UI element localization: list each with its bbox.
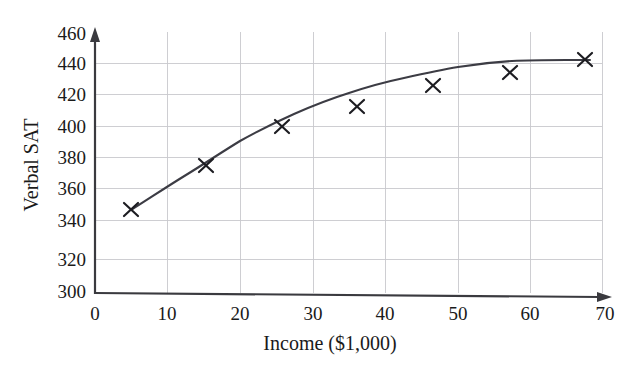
data-point-3 xyxy=(275,120,289,133)
x-axis-line xyxy=(95,293,600,297)
fit-curve xyxy=(131,60,590,210)
y-tick-300: 300 xyxy=(58,281,87,302)
y-tick-labels: 460 440 420 400 380 360 340 320 300 xyxy=(58,23,87,302)
y-axis-arrowhead xyxy=(90,27,100,42)
data-point-5 xyxy=(426,79,440,92)
y-tick-380: 380 xyxy=(58,147,87,168)
x-tick-40: 40 xyxy=(376,303,395,324)
x-tick-70: 70 xyxy=(596,303,615,324)
x-tick-20: 20 xyxy=(231,303,250,324)
y-axis xyxy=(90,27,100,294)
x-axis-title: Income ($1,000) xyxy=(263,332,396,355)
y-axis-title: Verbal SAT xyxy=(20,119,42,212)
x-axis xyxy=(95,292,612,302)
data-point-4 xyxy=(350,100,364,113)
y-tick-420: 420 xyxy=(58,84,87,105)
y-tick-340: 340 xyxy=(58,210,87,231)
x-tick-labels: 0 10 20 30 40 50 60 70 xyxy=(90,303,614,324)
scatter-plot-figure: 460 440 420 400 380 360 340 320 300 0 10… xyxy=(0,0,644,370)
data-point-1 xyxy=(124,203,138,216)
y-tick-400: 400 xyxy=(58,116,87,137)
x-tick-50: 50 xyxy=(449,303,468,324)
x-tick-60: 60 xyxy=(521,303,540,324)
x-axis-arrowhead xyxy=(597,292,612,302)
vertical-gridlines xyxy=(167,32,602,293)
y-tick-360: 360 xyxy=(58,178,87,199)
x-tick-30: 30 xyxy=(304,303,323,324)
y-tick-460: 460 xyxy=(58,23,87,44)
x-tick-0: 0 xyxy=(90,303,100,324)
y-tick-320: 320 xyxy=(58,249,87,270)
y-tick-440: 440 xyxy=(58,53,87,74)
x-tick-10: 10 xyxy=(158,303,177,324)
data-point-6 xyxy=(503,66,517,79)
data-markers xyxy=(124,53,592,216)
chart-page: 460 440 420 400 380 360 340 320 300 0 10… xyxy=(0,0,644,370)
